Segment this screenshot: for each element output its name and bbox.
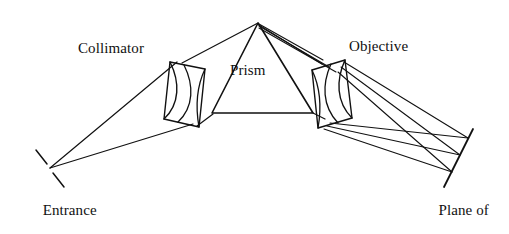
label-objective: Objective <box>349 38 408 54</box>
ray-bundle-slit-to-collimator <box>50 62 193 168</box>
label-entrance-slit: Entrance slit <box>10 186 114 234</box>
label-prism: Prism <box>230 62 266 78</box>
label-collimator: Collimator <box>78 40 144 56</box>
label-plane-of-spectrum-line1: Plane of <box>439 202 489 218</box>
prism-spectrograph-diagram: Collimator Prism Objective Entrance slit… <box>0 0 509 234</box>
plane-of-spectrum-line <box>444 129 473 187</box>
ray-bundle-objective-to-spectrum <box>324 62 468 172</box>
ray-bundle-prism-to-objective <box>259 24 336 119</box>
collimator-lens <box>164 62 205 127</box>
label-entrance-slit-line1: Entrance <box>43 202 97 218</box>
label-plane-of-spectrum: Plane of spectrum <box>404 186 508 234</box>
